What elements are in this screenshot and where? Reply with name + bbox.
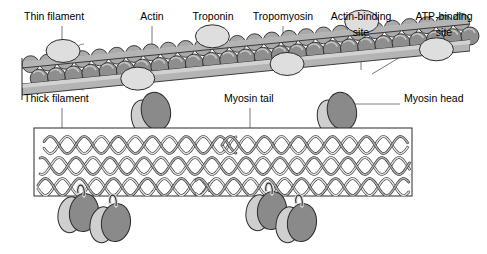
label-thick-filament: Thick filament — [24, 92, 89, 104]
troponin-complex — [419, 38, 453, 61]
label-myosin-head: Myosin head — [404, 92, 464, 104]
label-actin: Actin — [140, 10, 164, 22]
label-myosin-tail: Myosin tail — [224, 92, 274, 104]
label-atp-binding-site-line1: ATP-binding — [415, 10, 472, 22]
troponin-complex — [195, 25, 229, 48]
troponin-complex — [270, 52, 304, 75]
label-thin-filament: Thin filament — [24, 10, 84, 22]
label-actin-binding-site-line1: Actin-binding — [331, 10, 392, 22]
muscle-filament-diagram: Thin filament Actin Troponin Tropomyosin… — [0, 0, 487, 254]
thick-filament — [34, 128, 412, 196]
label-troponin: Troponin — [192, 10, 233, 22]
label-atp-binding-site-line2: site — [436, 26, 453, 38]
troponin-complex — [46, 39, 80, 62]
figure-canvas: Thin filament Actin Troponin Tropomyosin… — [0, 0, 487, 254]
label-actin-binding-site-line2: site — [353, 26, 370, 38]
troponin-complex — [121, 67, 155, 90]
label-tropomyosin: Tropomyosin — [253, 10, 313, 22]
